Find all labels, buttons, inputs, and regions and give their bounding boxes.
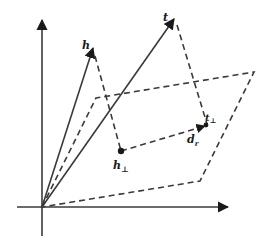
label-t: t — [163, 11, 168, 24]
hyperplane — [42, 72, 254, 207]
vector-t — [42, 19, 174, 207]
label-t-perp-sub: ⊥ — [210, 116, 217, 125]
vector-h — [42, 48, 93, 207]
label-h-perp: h⊥ — [113, 159, 129, 174]
point-t-perp — [204, 123, 209, 128]
projection-h — [95, 56, 121, 151]
label-d-r-sub: r — [195, 139, 200, 148]
point-h-perp — [118, 148, 124, 154]
label-h: h — [82, 39, 90, 52]
label-h-perp-sub: ⊥ — [121, 164, 129, 174]
diagram-canvas: h t h⊥ t⊥ dr — [0, 0, 269, 246]
label-h-perp-base: h — [113, 159, 121, 172]
label-d-r: dr — [187, 133, 200, 148]
projection-t — [177, 25, 207, 124]
axes — [17, 20, 228, 236]
